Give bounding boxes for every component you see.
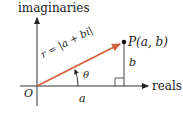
right-angle-marker	[115, 78, 124, 86]
complex-plane-diagram: imaginaries reals O a b θ P(a, b) r = |a…	[0, 0, 183, 118]
point-p-label: P(a, b)	[128, 36, 168, 48]
origin-label: O	[24, 88, 33, 99]
angle-theta-arc	[75, 70, 78, 86]
leg-b-label: b	[129, 57, 136, 68]
reals-axis-label: reals	[152, 80, 182, 92]
leg-a-label: a	[79, 93, 86, 104]
imaginaries-axis-label: imaginaries	[18, 2, 90, 14]
point-p-dot	[122, 40, 127, 45]
angle-theta-label: θ	[83, 70, 89, 80]
